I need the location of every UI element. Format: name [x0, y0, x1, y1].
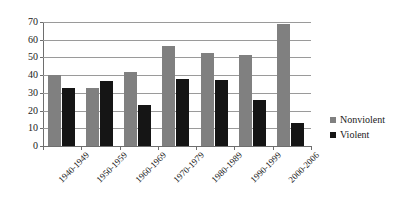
bar-groups [43, 22, 311, 147]
bar-nonviolent-1950-1959 [86, 88, 99, 146]
bar-violent-1990-1999 [253, 100, 266, 146]
legend-swatch-icon [330, 132, 336, 138]
x-tick-label: 1950-1959 [95, 150, 130, 185]
bar-nonviolent-1970-1979 [162, 46, 175, 146]
bar-chart: 010203040506070 1940-19491950-19591960-1… [0, 0, 410, 207]
x-tick-label: 1960-1969 [133, 150, 168, 185]
y-tick-label: 40 [28, 70, 38, 80]
x-tick-label: 1940-1949 [57, 150, 92, 185]
y-tick-label: 50 [28, 52, 38, 62]
bar-group [81, 22, 119, 146]
bar-group [196, 22, 234, 146]
legend-label: Nonviolent [340, 114, 385, 125]
x-tick-mark [311, 146, 312, 150]
plot-area: 010203040506070 [43, 22, 311, 147]
y-tick-label: 30 [28, 88, 38, 98]
x-axis-labels: 1940-19491950-19591960-19691970-19791980… [43, 150, 311, 207]
y-tick-label: 10 [28, 123, 38, 133]
bar-group [120, 22, 158, 146]
bar-nonviolent-1960-1969 [124, 72, 137, 146]
bar-nonviolent-2000-2006 [277, 24, 290, 146]
bar-violent-2000-2006 [291, 123, 304, 146]
bar-nonviolent-1980-1989 [201, 53, 214, 146]
x-tick-label: 1980-1989 [210, 150, 245, 185]
y-tick-label: 60 [28, 35, 38, 45]
legend-swatch-icon [330, 117, 336, 123]
x-tick-label: 2000-2006 [286, 150, 321, 185]
bar-violent-1940-1949 [62, 88, 75, 146]
bar-group [43, 22, 81, 146]
chart-legend: NonviolentViolent [330, 112, 385, 142]
bar-group [234, 22, 272, 146]
bar-violent-1980-1989 [215, 80, 228, 146]
bar-group [273, 22, 311, 146]
bar-violent-1970-1979 [176, 79, 189, 146]
bar-violent-1950-1959 [100, 81, 113, 146]
y-tick-label: 0 [33, 141, 38, 151]
legend-label: Violent [340, 129, 369, 140]
bar-group [158, 22, 196, 146]
bar-nonviolent-1940-1949 [48, 75, 61, 146]
y-tick-label: 70 [28, 17, 38, 27]
x-tick-label: 1970-1979 [171, 150, 206, 185]
legend-item-nonviolent[interactable]: Nonviolent [330, 112, 385, 127]
bar-violent-1960-1969 [138, 105, 151, 146]
legend-item-violent[interactable]: Violent [330, 127, 385, 142]
bar-nonviolent-1990-1999 [239, 55, 252, 146]
x-tick-label: 1990-1999 [248, 150, 283, 185]
y-tick-label: 20 [28, 106, 38, 116]
